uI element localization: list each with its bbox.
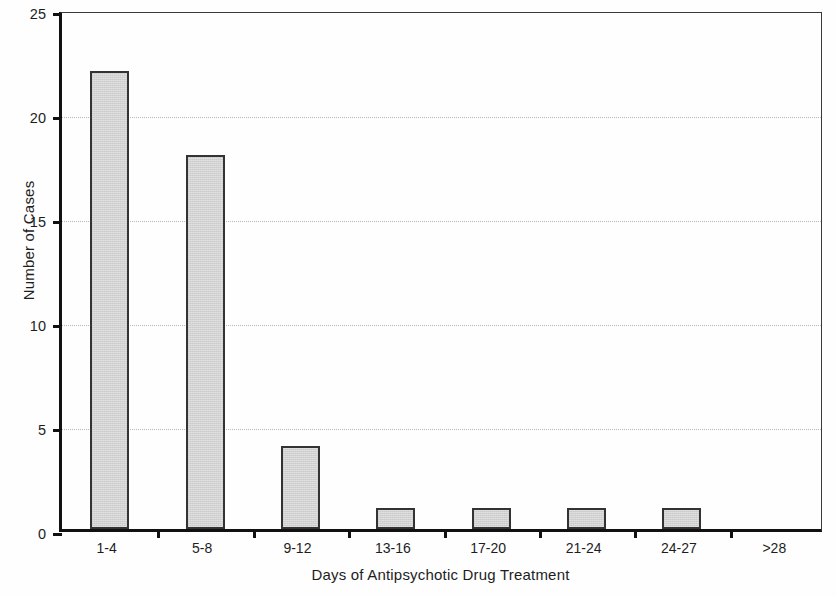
x-category-label: 1-4 [59, 540, 154, 556]
x-category-label: 13-16 [345, 540, 440, 556]
y-tick-15: 15 [53, 221, 62, 224]
bar [376, 508, 415, 529]
bar [186, 155, 225, 529]
bar-chart-figure: Number of Cases 0510152025 1-45-89-1213-… [0, 0, 836, 597]
y-tick-label-10: 10 [30, 318, 46, 334]
x-category-label: 17-20 [441, 540, 536, 556]
x-category-label: 21-24 [536, 540, 631, 556]
y-tick-20: 20 [53, 117, 62, 120]
x-tick-4 [444, 529, 447, 538]
y-tick-10: 10 [53, 325, 62, 328]
y-tick-label-0: 0 [38, 526, 46, 542]
x-tick-1 [157, 529, 160, 538]
bar [567, 508, 606, 529]
y-tick-label-15: 15 [30, 214, 46, 230]
y-tick-0: 0 [53, 533, 62, 536]
x-category-label: 24-27 [631, 540, 726, 556]
y-tick-5: 5 [53, 429, 62, 432]
bar [662, 508, 701, 529]
y-tick-label-20: 20 [30, 110, 46, 126]
plot-area: 0510152025 [59, 12, 822, 532]
bar [281, 446, 320, 529]
x-tick-7 [730, 529, 733, 538]
gridline-y-10 [62, 325, 821, 326]
x-tick-6 [634, 529, 637, 538]
gridline-y-15 [62, 221, 821, 222]
y-tick-label-5: 5 [38, 422, 46, 438]
bar [90, 71, 129, 529]
x-category-label: >28 [727, 540, 822, 556]
x-axis-title: Days of Antipsychotic Drug Treatment [59, 566, 822, 583]
gridline-y-5 [62, 429, 821, 430]
x-category-label: 5-8 [154, 540, 249, 556]
gridline-y-20 [62, 117, 821, 118]
y-tick-25: 25 [53, 13, 62, 16]
bar [472, 508, 511, 529]
x-category-label: 9-12 [250, 540, 345, 556]
x-tick-5 [539, 529, 542, 538]
x-tick-2 [253, 529, 256, 538]
x-tick-3 [348, 529, 351, 538]
y-tick-label-25: 25 [30, 6, 46, 22]
